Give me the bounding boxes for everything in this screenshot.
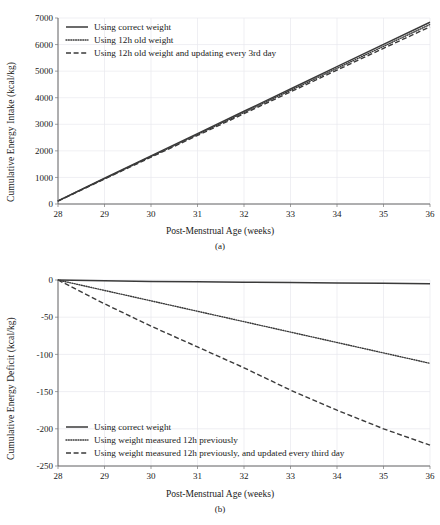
legend-label-b-2: Using weight measured 12h previously, an…: [94, 448, 345, 458]
y-tick-label: -200: [37, 424, 54, 434]
y-axis-title-b: Cumulative Energy Deficit (kcal/kg): [6, 284, 16, 460]
x-tick-label: 33: [286, 209, 296, 219]
x-tick-label: 36: [426, 209, 436, 219]
panel-a: Cumulative Energy Intake (kcal/kg) 01000…: [0, 0, 440, 258]
x-tick-label: 30: [147, 471, 157, 481]
figure-container: Cumulative Energy Intake (kcal/kg) 01000…: [0, 0, 440, 525]
legend-label-a-2: Using 12h old weight and updating every …: [94, 48, 277, 58]
x-tick-label: 28: [54, 471, 64, 481]
legend-label-a-1: Using 12h old weight: [94, 35, 174, 45]
x-axis-title-a: Post-Menstrual Age (weeks): [0, 226, 440, 236]
panel-caption-a: (a): [0, 241, 440, 251]
y-axis-title-a: Cumulative Energy Intake (kcal/kg): [6, 36, 16, 202]
x-tick-label: 34: [333, 471, 343, 481]
y-tick-label: 0: [49, 275, 54, 285]
y-tick-label: 3000: [35, 119, 54, 129]
y-tick-label: 7000: [35, 13, 54, 23]
y-tick-label: 4000: [35, 93, 54, 103]
x-tick-label: 33: [286, 471, 296, 481]
x-tick-label: 29: [100, 209, 110, 219]
y-tick-label: -100: [37, 350, 54, 360]
x-tick-label: 31: [193, 471, 202, 481]
y-tick-label: 1000: [35, 173, 54, 183]
legend-label-b-0: Using correct weight: [94, 422, 171, 432]
x-tick-label: 36: [426, 471, 436, 481]
x-axis-title-b: Post-Menstrual Age (weeks): [0, 489, 440, 499]
legend-label-a-0: Using correct weight: [94, 22, 171, 32]
x-tick-label: 35: [379, 209, 389, 219]
plot-area-b: 0-50-100-150-200-250282930313233343536Us…: [0, 258, 440, 488]
y-tick-label: -50: [41, 312, 53, 322]
y-tick-label: 2000: [35, 146, 54, 156]
x-tick-label: 28: [54, 209, 64, 219]
legend-label-b-1: Using weight measured 12h previously: [94, 435, 238, 445]
x-tick-label: 31: [193, 209, 202, 219]
x-tick-label: 32: [240, 471, 249, 481]
y-tick-label: -250: [37, 461, 54, 471]
y-tick-label: -150: [37, 387, 54, 397]
y-tick-label: 5000: [35, 66, 54, 76]
x-tick-label: 32: [240, 209, 249, 219]
x-tick-label: 35: [379, 471, 389, 481]
plot-area-a: 0100020003000400050006000700028293031323…: [0, 0, 440, 225]
panel-caption-b: (b): [0, 504, 440, 514]
y-tick-label: 0: [49, 199, 54, 209]
x-tick-label: 30: [147, 209, 157, 219]
x-tick-label: 29: [100, 471, 110, 481]
y-tick-label: 6000: [35, 40, 54, 50]
x-tick-label: 34: [333, 209, 343, 219]
panel-b: Cumulative Energy Deficit (kcal/kg) 0-50…: [0, 258, 440, 525]
